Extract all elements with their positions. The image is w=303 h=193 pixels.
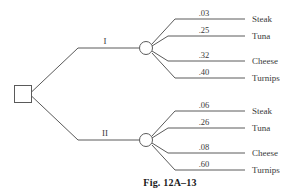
decision-node-square[interactable] xyxy=(15,86,32,103)
outcome-label-lower-2: Tuna xyxy=(252,123,270,133)
branch-label-upper: I xyxy=(104,36,107,46)
outcome-label-lower-1: Steak xyxy=(252,106,272,116)
figure-caption: Fig. 12A–13 xyxy=(143,177,196,188)
chance-node-lower[interactable] xyxy=(140,134,153,147)
branch-line-upper xyxy=(32,48,140,92)
probability-lower-1: .06 xyxy=(199,100,210,110)
probability-upper-3: .32 xyxy=(199,50,210,60)
probability-upper-1: .03 xyxy=(199,8,210,18)
probability-upper-4: .40 xyxy=(199,67,210,77)
outcome-label-upper-1: Steak xyxy=(252,14,272,24)
probability-lower-2: .26 xyxy=(199,117,210,127)
probability-lower-4: .60 xyxy=(199,159,210,169)
branch-line-lower xyxy=(32,96,140,140)
probability-lower-3: .08 xyxy=(199,142,210,152)
outcome-label-upper-2: Tuna xyxy=(252,31,270,41)
decision-tree-svg: I II .03 .25 .32 .40 .06 .26 .08 .60 Ste… xyxy=(0,0,303,193)
outcome-line-upper-2 xyxy=(152,36,245,46)
branch-label-lower: II xyxy=(102,128,108,138)
outcome-label-upper-4: Turnips xyxy=(252,73,280,83)
outcome-label-upper-3: Cheese xyxy=(252,56,278,66)
chance-node-upper[interactable] xyxy=(140,42,153,55)
outcome-line-lower-2 xyxy=(152,128,245,138)
probability-upper-2: .25 xyxy=(199,25,210,35)
outcome-label-lower-3: Cheese xyxy=(252,148,278,158)
outcome-label-lower-4: Turnips xyxy=(252,165,280,175)
decision-tree-figure: I II .03 .25 .32 .40 .06 .26 .08 .60 Ste… xyxy=(0,0,303,193)
